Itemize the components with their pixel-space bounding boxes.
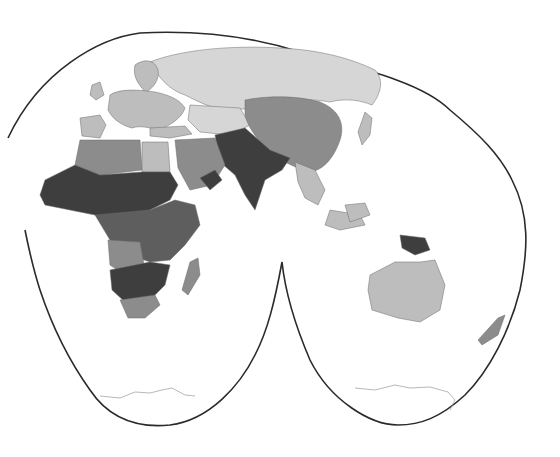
region-egypt (142, 142, 170, 172)
region-iberia (80, 115, 106, 138)
region-japan (358, 112, 372, 145)
region-southern-africa-dark (110, 262, 170, 302)
region-scandinavia (134, 61, 158, 92)
region-uk (90, 82, 104, 100)
world-choropleth-map (0, 0, 560, 457)
region-europe (108, 90, 185, 130)
antarctica-coast-left (100, 388, 195, 398)
region-turkey (150, 126, 192, 138)
region-australia (368, 260, 445, 322)
region-madagascar (182, 258, 200, 295)
antarctica-coast-right (355, 385, 455, 410)
region-papua-new-guinea (400, 235, 430, 255)
region-new-zealand (478, 315, 505, 345)
